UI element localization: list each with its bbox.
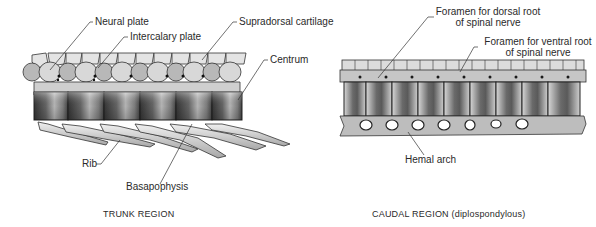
label-rib: Rib [82,158,97,169]
label-foramen-dorsal-line1: Foramen for dorsal root [428,6,548,17]
label-centrum: Centrum [270,54,308,65]
label-foramen-ventral-line2: of spinal nerve [480,47,596,58]
label-intercalary-plate: Intercalary plate [130,31,201,42]
caudal-vertebrae [340,60,586,136]
illustration [0,0,596,227]
label-foramen-ventral-root: Foramen for ventral root of spinal nerve [480,36,596,58]
label-foramen-dorsal-line2: of spinal nerve [428,17,548,28]
label-supradorsal-cartilage: Supradorsal cartilage [239,16,334,27]
label-foramen-ventral-line1: Foramen for ventral root [480,36,596,47]
label-basapophysis: Basapophysis [126,181,188,192]
caption-trunk-region: TRUNK REGION [103,209,174,219]
caption-caudal-region: CAUDAL REGION (diplospondylous) [372,209,525,219]
label-hemal-arch: Hemal arch [405,154,456,165]
label-foramen-dorsal-root: Foramen for dorsal root of spinal nerve [428,6,548,28]
vertebral-column-figure: Neural plate Intercalary plate Supradors… [0,0,596,227]
trunk-vertebrae [23,53,290,158]
label-neural-plate: Neural plate [95,16,149,27]
